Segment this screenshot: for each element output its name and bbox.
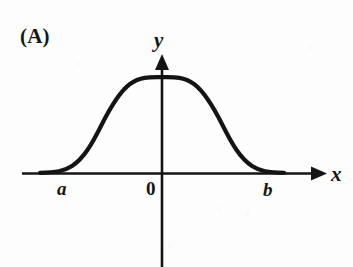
x-axis-label: x [330,162,342,186]
bell-curve-plot: y x a 0 b [0,0,353,267]
figure-panel: (A) y x a 0 b [0,0,353,267]
x-tick-label-b: b [263,179,273,200]
y-axis-arrowhead [155,54,169,70]
y-axis-label: y [151,28,164,52]
x-axis-arrowhead [311,167,327,181]
x-tick-label-a: a [57,178,67,199]
origin-label: 0 [146,178,156,199]
